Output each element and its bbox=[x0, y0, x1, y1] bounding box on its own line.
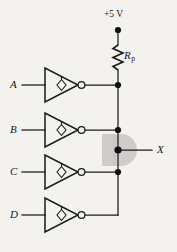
junction-dot-b bbox=[115, 127, 121, 133]
supply-label: +5 V bbox=[104, 10, 123, 20]
inversion-bubble-d bbox=[78, 212, 85, 219]
resistor-label-sub: p bbox=[131, 54, 135, 63]
input-label-c: C bbox=[10, 166, 17, 177]
pullup-resistor-symbol bbox=[113, 45, 123, 70]
input-label-d: D bbox=[10, 209, 18, 220]
input-label-b: B bbox=[10, 124, 17, 135]
junction-dot-c bbox=[115, 169, 121, 175]
input-label-a: A bbox=[10, 79, 17, 90]
junction-dot-a bbox=[115, 82, 121, 88]
inversion-bubble-b bbox=[78, 127, 85, 134]
gate-triangle-d bbox=[45, 198, 78, 232]
open-collector-marker-d bbox=[57, 210, 66, 221]
inversion-bubble-a bbox=[78, 82, 85, 89]
inverter-gate-d bbox=[22, 198, 118, 232]
gate-triangle-c bbox=[45, 155, 78, 189]
output-label-x: X bbox=[157, 144, 164, 155]
inverter-gate-a bbox=[22, 68, 121, 102]
resistor-label: Rp bbox=[124, 50, 134, 61]
junction-dot-x bbox=[114, 146, 121, 153]
open-collector-marker-a bbox=[57, 80, 66, 91]
open-collector-marker-c bbox=[57, 167, 66, 178]
inversion-bubble-c bbox=[78, 169, 85, 176]
circuit-schematic bbox=[0, 0, 177, 252]
resistor-label-main: R bbox=[124, 49, 131, 61]
open-collector-marker-b bbox=[57, 125, 66, 136]
gate-triangle-b bbox=[45, 113, 78, 147]
supply-branch bbox=[113, 27, 123, 85]
circuit-figure: +5 V Rp A B C D X bbox=[0, 0, 177, 252]
gate-triangle-a bbox=[45, 68, 78, 102]
